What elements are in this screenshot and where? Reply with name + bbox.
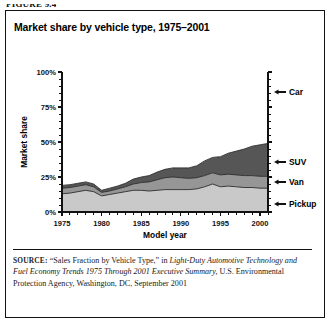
figure-number: FIGURE 9.4 bbox=[6, 0, 57, 9]
source-note: SOURCE: “Sales Fraction by Vehicle Type,… bbox=[13, 255, 313, 289]
source-part1: “Sales Fraction by Vehicle Type,” in bbox=[48, 256, 170, 265]
chart-title: Market share by vehicle type, 1975–2001 bbox=[14, 21, 210, 33]
source-divider bbox=[13, 249, 312, 250]
figure-root: FIGURE 9.4 Market share by vehicle type,… bbox=[0, 0, 332, 324]
source-prefix: SOURCE: bbox=[13, 256, 48, 265]
